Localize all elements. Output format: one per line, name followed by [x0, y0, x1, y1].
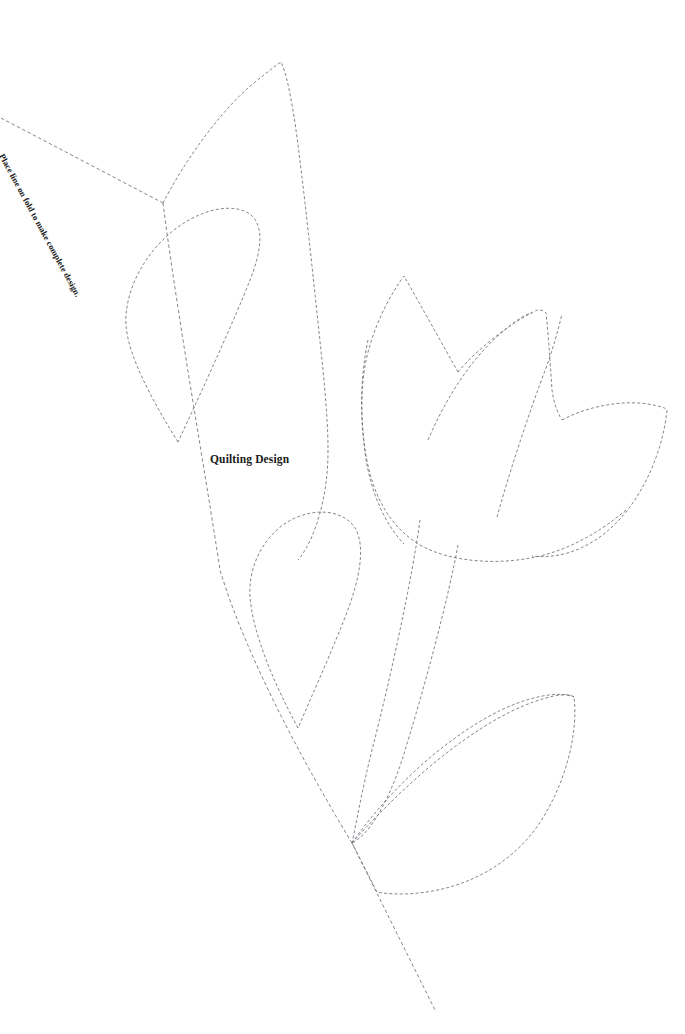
pattern-drawing — [0, 0, 685, 1034]
stem-left-line — [352, 520, 420, 843]
stem-right-line — [352, 545, 458, 843]
quilting-pattern-sheet: Quilting Design Place line on fold to ma… — [0, 0, 685, 1034]
tulip-mid-vein — [497, 314, 562, 517]
bottom-right-leaf — [352, 695, 575, 894]
tulip-center-inner-edge — [428, 313, 532, 440]
tulip-right-petal — [532, 403, 667, 557]
tulip-bottom-arc — [420, 510, 626, 561]
tulip-left-petal — [362, 276, 458, 544]
upper-left-leaf — [126, 208, 260, 442]
top-petal — [163, 62, 328, 560]
fold-line-lower-segment — [163, 203, 436, 1012]
tulip-body-left-edge — [362, 340, 420, 545]
bottom-right-leaf-inner-edge — [352, 694, 574, 843]
tulip-center-petal — [458, 310, 562, 420]
page-title: Quilting Design — [210, 453, 289, 465]
middle-left-leaf — [250, 512, 361, 728]
